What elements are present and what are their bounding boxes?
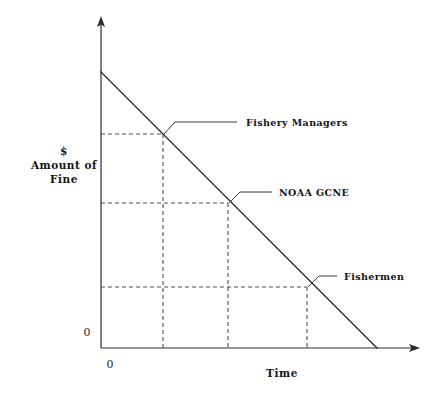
y-axis-title-line-1: $ [60,145,68,157]
annotation-label-fishery-managers: Fishery Managers [246,117,348,128]
x-axis-origin-label: 0 [107,358,114,371]
axis-titles-group: Time $ Amount of Fine [30,145,298,379]
x-axis-title: Time [266,367,298,379]
y-axis-title-line-2: Amount of [30,159,98,171]
annotation-label-noaa-gcne: NOAA GCNE [279,187,349,198]
annotation-labels-group: Fishery Managers NOAA GCNE Fishermen [246,117,404,282]
axes-group [97,16,420,352]
guide-lines-group [101,134,307,348]
data-series-group [101,72,377,348]
chart-figure: Fishery Managers NOAA GCNE Fishermen 0 0… [0,0,439,400]
y-axis-title-line-3: Fine [50,173,78,185]
leader-line-fishery-managers [164,122,237,134]
annotation-leaders-group [164,122,337,287]
y-axis-origin-label: 0 [84,326,91,339]
fine-vs-time-line-chart: Fishery Managers NOAA GCNE Fishermen 0 0… [0,0,439,400]
annotation-label-fishermen: Fishermen [344,271,404,282]
leader-line-fishermen [308,276,337,287]
leader-line-noaa-gcne [229,192,272,203]
fine-decline-line [101,72,377,348]
